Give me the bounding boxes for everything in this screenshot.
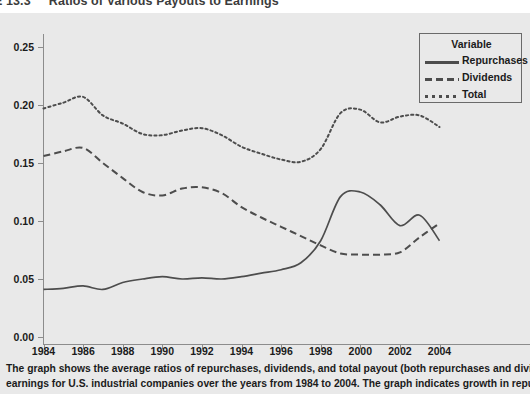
x-tick-label: 1998 <box>301 345 341 357</box>
chart-plot-area: 0.000.050.100.150.200.25 Variable Repurc… <box>0 13 530 345</box>
x-tick-label: 1990 <box>142 345 182 357</box>
series-line-dividends <box>44 147 440 254</box>
figure-caption: The graph shows the average ratios of re… <box>0 361 530 394</box>
chart-legend: Variable RepurchasesDividendsTotal <box>419 33 522 103</box>
x-tick-label: 2002 <box>380 345 420 357</box>
figure-header-text: E 13.3Ratios of Various Payouts to Earni… <box>0 0 279 8</box>
caption-line-2: earnings for U.S. industrial companies o… <box>6 376 524 391</box>
figure-header: E 13.3Ratios of Various Payouts to Earni… <box>0 0 530 13</box>
x-tick-label: 1992 <box>182 345 222 357</box>
legend-swatch-dashed-line-icon <box>425 78 459 81</box>
legend-item-dividends[interactable]: Dividends <box>425 71 521 86</box>
legend-label: Repurchases <box>462 54 528 66</box>
x-tick-label: 2004 <box>420 345 460 357</box>
series-line-repurchases <box>44 191 440 290</box>
x-tick-label: 1994 <box>222 345 262 357</box>
x-tick-label: 1984 <box>24 345 64 357</box>
legend-swatch-solid-line-icon <box>425 61 459 64</box>
series-line-total <box>44 96 440 162</box>
caption-line-1: The graph shows the average ratios of re… <box>6 361 524 376</box>
legend-item-total[interactable]: Total <box>425 88 521 103</box>
legend-label: Dividends <box>462 71 512 83</box>
legend-item-repurchases[interactable]: Repurchases <box>425 54 521 69</box>
x-axis-labels: 1984198619881990199219941996199820002002… <box>0 345 530 361</box>
x-tick-label: 2000 <box>340 345 380 357</box>
figure-title: Ratios of Various Payouts to Earnings <box>49 0 279 8</box>
legend-swatch-dotted-line-icon <box>425 95 459 98</box>
legend-label: Total <box>462 88 486 100</box>
x-tick-label: 1986 <box>63 345 103 357</box>
legend-title: Variable <box>420 38 523 50</box>
x-tick-label: 1988 <box>103 345 143 357</box>
x-tick-label: 1996 <box>261 345 301 357</box>
figure-number: E 13.3 <box>0 0 31 8</box>
